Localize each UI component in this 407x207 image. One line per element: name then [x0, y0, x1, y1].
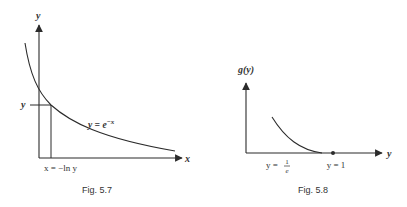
y-axis-label: y	[386, 148, 392, 159]
exp-decay-curve	[25, 43, 175, 151]
g-curve	[272, 117, 322, 153]
figure-caption: Fig. 5.7	[82, 185, 112, 195]
marker-x-label: x = −ln y	[44, 163, 77, 173]
y-axis-label: y	[35, 10, 41, 21]
tick-label-one-over-e: y = 1 e	[266, 158, 290, 175]
tick-label-y-equals-1: y = 1	[327, 160, 346, 170]
svg-text:e: e	[285, 167, 288, 175]
figure-5-8: g(y) y y = 1 e y = 1 Fig. 5.8	[237, 64, 392, 195]
svg-text:y =: y =	[266, 160, 278, 170]
y-equals-1-point	[331, 151, 335, 155]
figures-canvas: y x y x = −ln y y = e−x Fig. 5.7 g(y) y …	[0, 0, 407, 207]
figure-caption: Fig. 5.8	[298, 185, 328, 195]
marker-y-label: y	[20, 99, 26, 110]
x-axis-label: x	[184, 153, 190, 164]
figure-5-7: y x y x = −ln y y = e−x Fig. 5.7	[20, 10, 190, 195]
svg-text:1: 1	[285, 158, 289, 166]
curve-label: y = e−x	[87, 118, 115, 130]
g-axis-label: g(y)	[237, 64, 254, 76]
